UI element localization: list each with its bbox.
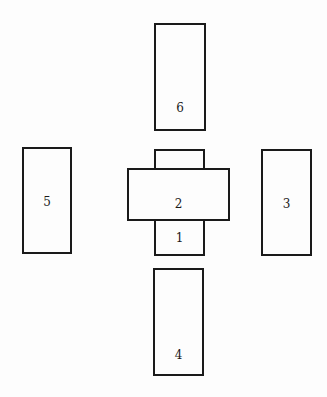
card-3: 3 [261,149,312,256]
card-4: 4 [153,268,204,376]
card-3-label: 3 [263,197,310,211]
card-2: 2 [127,168,230,221]
card-5-label: 5 [24,195,70,209]
card-6: 6 [154,23,206,131]
card-1-label: 1 [156,231,203,245]
card-5: 5 [22,147,72,254]
card-2-label: 2 [129,197,228,211]
card-4-label: 4 [155,348,202,362]
card-6-label: 6 [156,101,204,115]
